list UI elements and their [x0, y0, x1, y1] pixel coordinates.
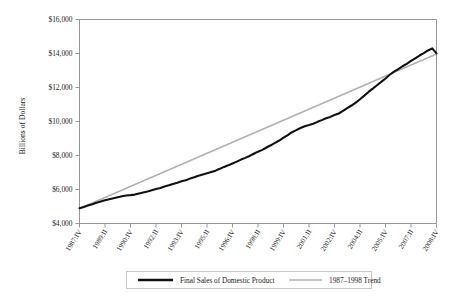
- x-tick-label: 1987:IV: [64, 228, 84, 253]
- x-tick-label: 2007:II: [397, 228, 415, 251]
- x-tick-label: 2005:IV: [370, 228, 390, 253]
- x-axis-ticks: 1987:IV1989:II1990:IV1992:II1993:IV1995:…: [64, 224, 441, 253]
- line-chart: Billions of Dollars $4,000$6,000$8,000$1…: [0, 0, 454, 305]
- y-axis-label: Billions of Dollars: [18, 98, 27, 155]
- x-tick-label: 1992:II: [142, 228, 160, 251]
- legend-label-final-sales: Final Sales of Domestic Product: [180, 276, 274, 285]
- chart-figure: Billions of Dollars $4,000$6,000$8,000$1…: [0, 0, 454, 305]
- x-tick-label: 1996:IV: [217, 228, 237, 253]
- y-axis-label-text: Billions of Dollars: [18, 98, 27, 155]
- y-tick-label: $6,000: [52, 185, 73, 194]
- y-tick-label: $4,000: [52, 219, 73, 228]
- trend-line-series: [80, 54, 437, 209]
- legend-label-trend: 1987–1998 Trend: [329, 276, 381, 285]
- x-tick-label: 1995:II: [193, 228, 211, 251]
- x-tick-label: 1990:IV: [115, 228, 135, 253]
- x-tick-label: 2008:IV: [421, 228, 441, 253]
- x-tick-label: 2002:IV: [319, 228, 339, 253]
- x-tick-label: 1999:IV: [268, 228, 288, 253]
- axis-frame: [80, 20, 437, 224]
- x-tick-label: 2001:II: [295, 228, 313, 251]
- y-tick-label: $16,000: [48, 15, 72, 24]
- y-tick-label: $10,000: [48, 117, 72, 126]
- final-sales-line-series: [80, 48, 437, 208]
- y-tick-label: $14,000: [48, 49, 72, 58]
- chart-legend: Final Sales of Domestic Product 1987–199…: [127, 272, 382, 289]
- x-tick-label: 2004:II: [346, 228, 364, 251]
- x-tick-label: 1998:II: [244, 228, 262, 251]
- y-axis-ticks: $4,000$6,000$8,000$10,000$12,000$14,000$…: [48, 15, 79, 228]
- x-tick-label: 1989:II: [91, 228, 109, 251]
- y-tick-label: $8,000: [52, 151, 73, 160]
- x-tick-label: 1993:IV: [166, 228, 186, 253]
- plot-axes: [80, 20, 437, 224]
- y-tick-label: $12,000: [48, 83, 72, 92]
